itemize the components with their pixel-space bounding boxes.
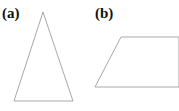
figure-canvas: (a) (b): [0, 0, 179, 111]
shapes-svg: [0, 0, 179, 111]
trapezoid-shape-b: [95, 37, 179, 87]
triangle-shape-a: [14, 12, 73, 101]
